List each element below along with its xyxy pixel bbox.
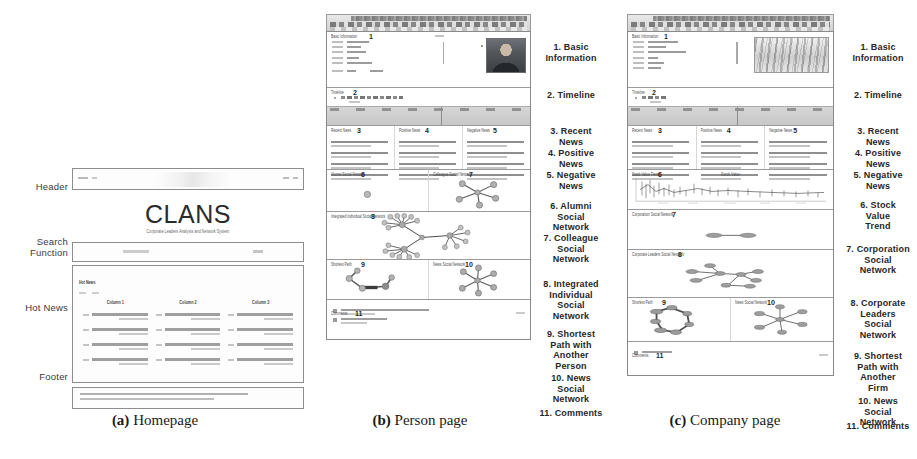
header-signup-link[interactable] bbox=[293, 177, 298, 179]
news-item[interactable] bbox=[701, 163, 761, 169]
shortest-path-graph bbox=[327, 260, 428, 299]
field-key bbox=[633, 57, 644, 59]
news-item[interactable] bbox=[399, 163, 458, 169]
list-item[interactable] bbox=[228, 358, 293, 365]
news-title bbox=[632, 152, 689, 154]
section-tag: Positive News bbox=[701, 128, 722, 133]
field-row bbox=[332, 62, 419, 64]
list-item[interactable] bbox=[156, 343, 221, 350]
timeline-band[interactable] bbox=[628, 106, 833, 125]
section-corporate-leaders-social-network[interactable]: Corporate Leaders Social Network 8 bbox=[628, 250, 833, 298]
browser-chrome[interactable] bbox=[326, 14, 531, 31]
timeline-cursor[interactable] bbox=[737, 107, 738, 125]
search-button[interactable] bbox=[253, 250, 263, 253]
item-meta bbox=[119, 318, 148, 320]
list-item[interactable] bbox=[228, 343, 293, 350]
news-item[interactable] bbox=[769, 163, 829, 169]
section-corporation-social-network[interactable]: Corporation Social Network 7 bbox=[628, 210, 833, 250]
list-item[interactable] bbox=[83, 358, 148, 365]
field-row bbox=[332, 46, 419, 48]
news-item[interactable] bbox=[701, 152, 761, 158]
section-news-social-network[interactable]: News Social Network 10 bbox=[731, 298, 833, 341]
item-index bbox=[156, 344, 162, 346]
chart-label bbox=[435, 35, 444, 37]
news-title bbox=[467, 152, 524, 154]
news-meta bbox=[399, 145, 439, 147]
browser-chrome[interactable] bbox=[627, 14, 834, 31]
item-meta bbox=[264, 333, 293, 335]
search-function-bar[interactable] bbox=[72, 242, 304, 262]
list-item[interactable] bbox=[83, 343, 148, 350]
news-item[interactable] bbox=[701, 141, 761, 147]
legend-item-6: 6. Stock Value Trend bbox=[839, 200, 917, 232]
news-item[interactable] bbox=[399, 152, 458, 158]
list-item[interactable] bbox=[83, 328, 148, 335]
avatar bbox=[333, 318, 337, 322]
browser-address-bar[interactable] bbox=[631, 27, 830, 31]
comments-more-link[interactable] bbox=[819, 354, 828, 356]
person-browser-window: Basic Information 1 bbox=[326, 14, 531, 340]
legend-item-2: 2. Timeline bbox=[532, 90, 610, 101]
item-title bbox=[92, 343, 148, 346]
section-integrated-individual-social-network[interactable]: Integrated Individual Social Network 8 bbox=[327, 212, 530, 260]
field-key bbox=[332, 70, 343, 72]
list-item[interactable] bbox=[228, 328, 293, 335]
header-nav-mark[interactable] bbox=[92, 177, 97, 179]
news-item[interactable] bbox=[769, 152, 829, 158]
news-item[interactable] bbox=[467, 152, 526, 158]
list-item[interactable] bbox=[228, 313, 293, 320]
search-input[interactable] bbox=[123, 250, 149, 253]
section-stock-value-trend[interactable]: Stock Value Trend 6 Stock Value bbox=[628, 170, 833, 210]
brand-block: CLANS Corporate Leaders Analysis and Net… bbox=[72, 190, 304, 237]
legend-item-9: 9. Shortest Path with Another Person bbox=[532, 329, 610, 371]
section-tag: Comments bbox=[331, 311, 347, 316]
timeline-band[interactable] bbox=[327, 106, 530, 125]
news-title bbox=[769, 163, 826, 165]
field-key bbox=[633, 46, 644, 48]
comment-text bbox=[341, 318, 387, 320]
list-item[interactable] bbox=[83, 313, 148, 320]
news-item[interactable] bbox=[467, 141, 526, 147]
section-comments: Comments 11 bbox=[327, 309, 530, 339]
section-colleague-social-network[interactable]: Colleague Social Network 7 bbox=[429, 170, 530, 211]
news-item[interactable] bbox=[632, 152, 692, 158]
field-row bbox=[633, 51, 731, 53]
comments-more-link[interactable] bbox=[516, 312, 525, 314]
section-news-social-network[interactable]: News Social Network 10 bbox=[429, 260, 530, 299]
section-tag: Negative News bbox=[467, 128, 490, 133]
section-negative-news: Negative News 5 bbox=[463, 126, 530, 169]
footer-links-row-2[interactable] bbox=[80, 398, 214, 400]
list-item[interactable] bbox=[156, 328, 221, 335]
footer-links-row-1[interactable] bbox=[80, 393, 248, 395]
section-shortest-path-with-another-firm[interactable]: Shortest Path 9 bbox=[628, 298, 731, 341]
caption-text: Person page bbox=[395, 412, 468, 428]
homepage-header-bar[interactable] bbox=[72, 168, 304, 190]
hot-news-tab-2[interactable] bbox=[92, 292, 99, 294]
list-item[interactable] bbox=[156, 313, 221, 320]
corporate-leaders-network-graph bbox=[628, 250, 833, 297]
bullet-icon bbox=[334, 97, 336, 99]
hot-news-tabs[interactable] bbox=[79, 292, 297, 294]
news-item[interactable] bbox=[331, 141, 390, 147]
timeline-cursor[interactable] bbox=[441, 107, 442, 125]
news-item[interactable] bbox=[467, 163, 526, 169]
header-login-link[interactable] bbox=[283, 177, 289, 179]
legend-item-4: 4. Positive News bbox=[532, 148, 610, 169]
legend-item-10: 10. News Social Network bbox=[532, 373, 610, 405]
browser-address-bar[interactable] bbox=[330, 27, 527, 31]
news-item[interactable] bbox=[632, 141, 692, 147]
hot-news-tab-1[interactable] bbox=[79, 292, 86, 294]
news-item[interactable] bbox=[769, 141, 829, 147]
comment-meta bbox=[341, 322, 367, 324]
section-shortest-path-with-another-person[interactable]: Shortest Path 9 bbox=[327, 260, 429, 299]
item-index bbox=[83, 359, 89, 361]
list-item[interactable] bbox=[156, 358, 221, 365]
news-item[interactable] bbox=[632, 163, 692, 169]
caption-tag: (a) bbox=[112, 412, 130, 428]
news-item[interactable] bbox=[331, 163, 390, 169]
section-alumni-social-network[interactable]: Alumni Social Network 6 bbox=[327, 170, 429, 211]
news-item[interactable] bbox=[399, 141, 458, 147]
news-item[interactable] bbox=[331, 152, 390, 158]
section-timeline: Timeline 2 bbox=[327, 88, 530, 126]
label-footer: Footer bbox=[39, 372, 68, 383]
